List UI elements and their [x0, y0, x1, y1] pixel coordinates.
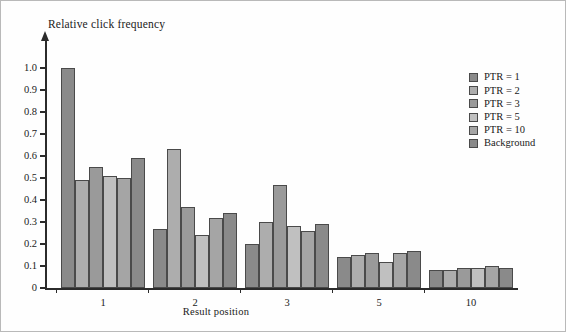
- bar: [443, 270, 457, 288]
- legend-label: Background: [484, 138, 535, 149]
- y-tick: [40, 67, 46, 68]
- legend-item: PTR = 5: [469, 111, 535, 124]
- legend-item: PTR = 1: [469, 71, 535, 84]
- x-tick: [332, 288, 333, 293]
- bar: [499, 268, 513, 288]
- bar: [351, 255, 365, 288]
- x-tick-label: 10: [466, 297, 477, 308]
- legend-swatch: [469, 99, 478, 108]
- bar: [471, 268, 485, 288]
- legend-swatch: [469, 73, 478, 82]
- bar: [103, 176, 117, 288]
- legend-item: PTR = 3: [469, 97, 535, 110]
- x-axis-title: Result position: [1, 306, 431, 317]
- bar: [457, 268, 471, 288]
- bar: [301, 231, 315, 288]
- y-tick: [40, 155, 46, 156]
- y-tick-label: 0.2: [24, 239, 37, 250]
- legend-item: PTR = 10: [469, 124, 535, 137]
- x-tick: [148, 288, 149, 293]
- bar: [407, 251, 421, 288]
- y-tick-label: 0.7: [24, 129, 37, 140]
- y-tick-label: 0: [32, 283, 37, 294]
- legend-label: PTR = 2: [484, 86, 520, 97]
- y-tick: [40, 133, 46, 134]
- bar: [393, 253, 407, 288]
- legend-swatch: [469, 126, 478, 135]
- bar: [61, 68, 75, 288]
- bar: [287, 226, 301, 288]
- legend-swatch: [469, 86, 478, 95]
- legend-label: PTR = 1: [484, 72, 520, 83]
- legend-label: PTR = 10: [484, 125, 525, 136]
- bar: [75, 180, 89, 288]
- bar: [379, 262, 393, 288]
- y-tick: [40, 265, 46, 266]
- y-tick: [40, 243, 46, 244]
- plot-area: 00.10.20.30.40.50.60.70.80.91.0 123510: [45, 39, 525, 288]
- bar: [245, 244, 259, 288]
- bar-group: [61, 39, 145, 288]
- y-tick: [40, 199, 46, 200]
- y-tick: [40, 89, 46, 90]
- bar: [153, 229, 167, 288]
- y-tick-label: 0.1: [24, 261, 37, 272]
- legend-swatch: [469, 113, 478, 122]
- bar: [337, 257, 351, 288]
- bar: [259, 222, 273, 288]
- y-axis-title: Relative click frequency: [48, 18, 165, 30]
- y-tick: [40, 287, 46, 288]
- bar: [195, 235, 209, 288]
- bar-group: [337, 39, 421, 288]
- y-axis-arrow: [41, 31, 49, 41]
- chart-figure: Relative click frequency 00.10.20.30.40.…: [0, 0, 566, 332]
- x-tick: [424, 288, 425, 293]
- bar: [181, 207, 195, 288]
- bar: [167, 149, 181, 288]
- chart-legend: PTR = 1PTR = 2PTR = 3PTR = 5PTR = 10Back…: [469, 71, 535, 150]
- legend-item: PTR = 2: [469, 84, 535, 97]
- bar-group: [245, 39, 329, 288]
- bar: [429, 270, 443, 288]
- y-tick-label: 0.6: [24, 151, 37, 162]
- bar: [365, 253, 379, 288]
- y-tick-label: 0.8: [24, 107, 37, 118]
- y-tick-label: 0.9: [24, 85, 37, 96]
- bar: [223, 213, 237, 288]
- bar: [131, 158, 145, 288]
- bar: [315, 224, 329, 288]
- bar: [117, 178, 131, 288]
- legend-label: PTR = 5: [484, 112, 520, 123]
- bar-group: [153, 39, 237, 288]
- y-tick-label: 0.5: [24, 173, 37, 184]
- x-tick: [240, 288, 241, 293]
- bar: [89, 167, 103, 288]
- bar: [485, 266, 499, 288]
- y-tick-label: 1.0: [24, 63, 37, 74]
- y-tick: [40, 111, 46, 112]
- legend-swatch: [469, 139, 478, 148]
- legend-label: PTR = 3: [484, 99, 520, 110]
- x-tick: [56, 288, 57, 293]
- x-axis-line: [45, 288, 518, 290]
- y-tick: [40, 221, 46, 222]
- y-tick-label: 0.3: [24, 217, 37, 228]
- y-tick-label: 0.4: [24, 195, 37, 206]
- y-axis-line: [45, 39, 47, 288]
- y-tick: [40, 177, 46, 178]
- bar: [209, 218, 223, 288]
- bar: [273, 185, 287, 288]
- legend-item: Background: [469, 137, 535, 150]
